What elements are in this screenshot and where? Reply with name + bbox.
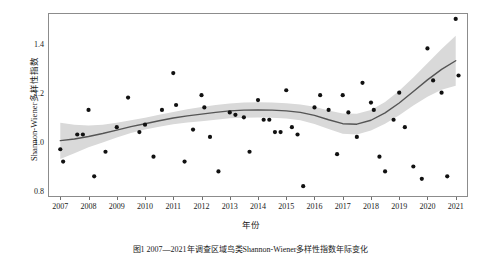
data-point [278, 130, 282, 134]
data-point [262, 118, 266, 122]
x-axis-tick-mark [230, 197, 231, 200]
data-point [318, 93, 322, 97]
x-axis-tick-mark [399, 197, 400, 200]
x-axis-tick-label: 2020 [419, 202, 435, 211]
data-point [191, 127, 195, 131]
x-axis-tick-mark [314, 197, 315, 200]
x-axis-tick-label: 2007 [52, 202, 68, 211]
data-point [208, 135, 212, 139]
y-axis-tick-labels: 0.81.01.21.4 [14, 13, 44, 197]
data-point [403, 125, 407, 129]
x-axis-tick-label: 2013 [222, 202, 238, 211]
y-axis-tick-label: 1.4 [18, 39, 44, 48]
x-axis-tick-mark [145, 197, 146, 200]
confidence-band [60, 36, 455, 159]
data-point [355, 135, 359, 139]
data-point [81, 132, 85, 136]
x-axis-tick-label: 2019 [391, 202, 407, 211]
x-axis-tick-label: 2014 [250, 202, 266, 211]
x-axis-tick-label: 2018 [363, 202, 379, 211]
data-point [216, 169, 220, 173]
data-point [182, 159, 186, 163]
data-point [256, 98, 260, 102]
x-axis-tick-mark [89, 197, 90, 200]
data-point [75, 132, 79, 136]
y-axis-tick-label: 1.0 [18, 137, 44, 146]
data-point [360, 81, 364, 85]
x-axis-title: 年份 [0, 218, 501, 230]
data-point [445, 174, 449, 178]
data-point [61, 159, 65, 163]
data-point [290, 125, 294, 129]
x-axis-tick-label: 2012 [194, 202, 210, 211]
data-point [327, 108, 331, 112]
x-axis-tick-label: 2009 [109, 202, 125, 211]
x-axis-tick-label: 2008 [81, 202, 97, 211]
y-axis-tick-label: 1.2 [18, 88, 44, 97]
data-point [284, 88, 288, 92]
data-point [295, 132, 299, 136]
data-point [425, 46, 429, 50]
data-point [439, 91, 443, 95]
data-point [199, 93, 203, 97]
data-point [126, 96, 130, 100]
data-point [247, 150, 251, 154]
data-point [151, 155, 155, 159]
data-point [115, 125, 119, 129]
data-point [454, 17, 458, 21]
data-point [383, 169, 387, 173]
figure-caption: 图1 2007—2021年调查区域鸟类Shannon-Wiener多样性指数年际… [0, 243, 501, 254]
data-point [202, 105, 206, 109]
data-point [431, 78, 435, 82]
data-point [228, 110, 232, 114]
x-axis-tick-mark [371, 197, 372, 200]
data-point [58, 147, 62, 151]
x-axis-tick-label: 2016 [306, 202, 322, 211]
data-point [346, 110, 350, 114]
x-axis-tick-label: 2011 [165, 202, 181, 211]
x-axis-tick-mark [456, 197, 457, 200]
data-point [397, 91, 401, 95]
data-point [92, 174, 96, 178]
data-point [341, 93, 345, 97]
data-point [160, 108, 164, 112]
x-axis-tick-mark [286, 197, 287, 200]
data-point [377, 155, 381, 159]
data-point [335, 152, 339, 156]
x-axis-tick-mark [202, 197, 203, 200]
data-point [242, 115, 246, 119]
data-point [267, 118, 271, 122]
data-point [137, 130, 141, 134]
x-axis-tick-label: 2015 [278, 202, 294, 211]
data-point [391, 118, 395, 122]
x-axis-tick-mark [173, 197, 174, 200]
x-axis-tick-mark [60, 197, 61, 200]
data-point [420, 177, 424, 181]
x-axis-tick-label: 2017 [335, 202, 351, 211]
data-point [171, 71, 175, 75]
data-point [369, 100, 373, 104]
data-point [312, 105, 316, 109]
scatter-plot-svg [49, 14, 467, 196]
data-point [174, 103, 178, 107]
x-axis-tick-label: 2021 [448, 202, 464, 211]
x-axis-tick-mark [427, 197, 428, 200]
data-point [143, 123, 147, 127]
data-point [411, 164, 415, 168]
data-point [372, 108, 376, 112]
x-axis-tick-mark [117, 197, 118, 200]
data-point [86, 108, 90, 112]
data-point [233, 113, 237, 117]
data-point [103, 150, 107, 154]
data-point [273, 130, 277, 134]
y-axis-tick-label: 0.8 [18, 187, 44, 196]
data-point [456, 73, 460, 77]
x-axis-tick-label: 2010 [137, 202, 153, 211]
data-point [301, 184, 305, 188]
plot-panel [48, 13, 468, 197]
x-axis-tick-mark [343, 197, 344, 200]
x-axis-tick-mark [258, 197, 259, 200]
